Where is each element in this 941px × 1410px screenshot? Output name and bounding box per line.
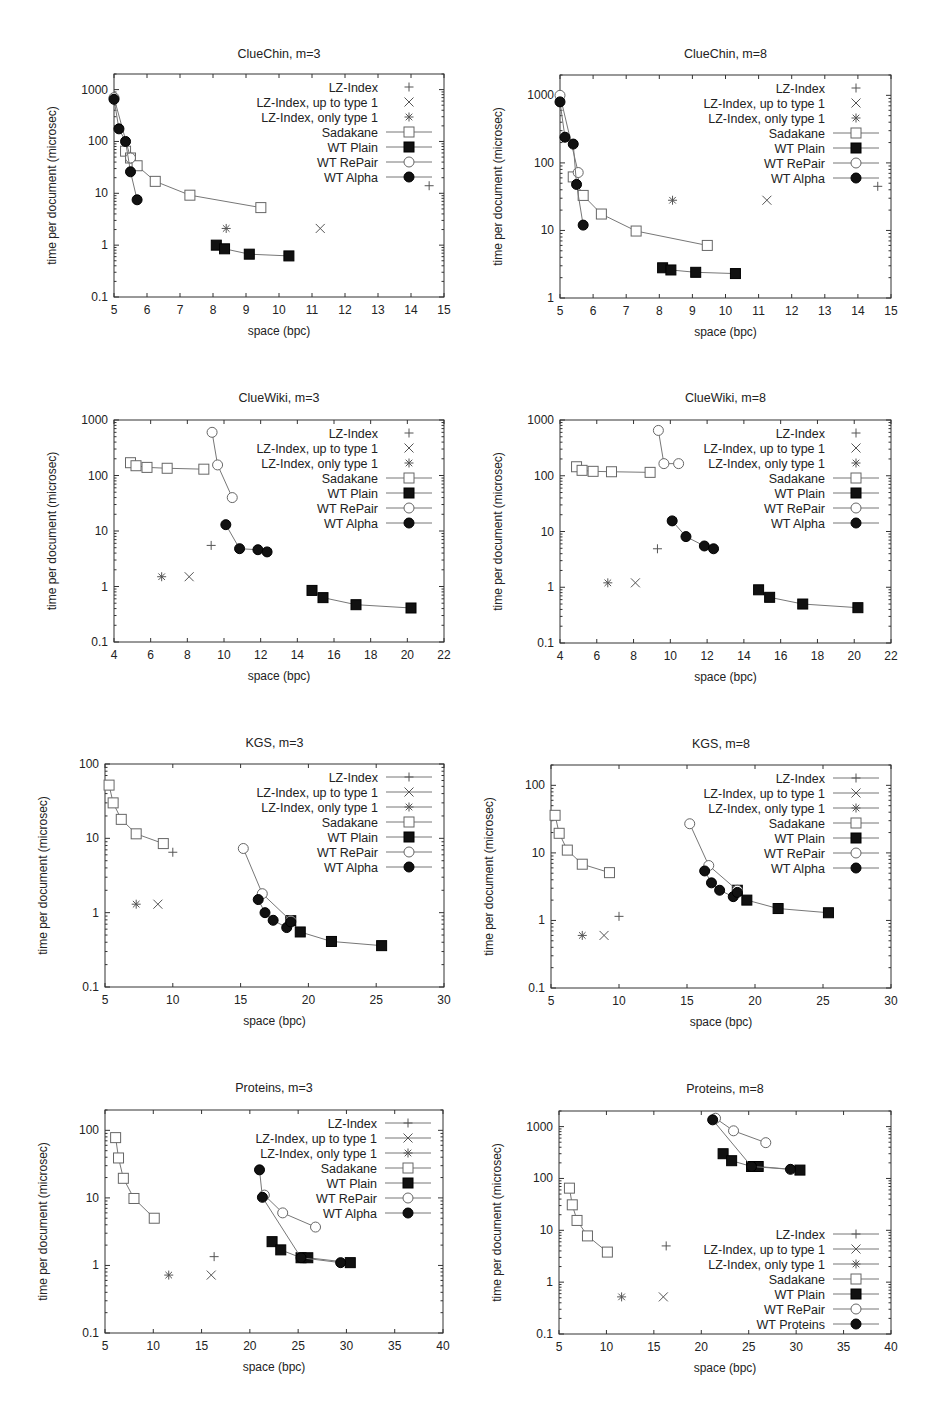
legend-label: WT Alpha	[771, 172, 825, 186]
y-tick-label: 1000	[527, 88, 554, 102]
legend-open-circle-icon	[851, 848, 861, 858]
legend-label: WT RePair	[317, 846, 378, 860]
legend-item: LZ-Index, only type 1	[261, 111, 413, 125]
x-tick-label: 25	[291, 1339, 305, 1353]
series-lz-index	[662, 1241, 671, 1250]
legend-filled-circle-icon	[851, 863, 861, 873]
x-tick-label: 5	[556, 1340, 563, 1354]
legend-item: WT Plain	[775, 832, 879, 846]
legend-label: WT RePair	[764, 502, 825, 516]
legend-filled-circle-icon	[851, 518, 861, 528]
chart-cluewiki-m8: ClueWiki, m=8468101214161820220.11101001…	[491, 391, 898, 684]
series-wt-repair	[711, 1113, 771, 1147]
data-point-star-icon	[603, 578, 612, 587]
x-tick-label: 6	[147, 648, 154, 662]
legend-item: LZ-Index, up to type 1	[703, 97, 860, 111]
legend-item: LZ-Index, up to type 1	[256, 96, 413, 110]
y-tick-label: 1000	[81, 413, 108, 427]
legend-label: LZ-Index, up to type 1	[703, 97, 825, 111]
data-point-open-square-icon	[185, 190, 195, 200]
y-tick-label: 1	[546, 1275, 553, 1289]
x-tick-label: 7	[623, 304, 630, 318]
legend-item: LZ-Index, up to type 1	[256, 442, 413, 456]
legend-label: WT Plain	[775, 1288, 826, 1302]
data-point-open-square-icon	[162, 463, 172, 473]
x-axis-label: space (bpc)	[243, 1014, 306, 1028]
legend-open-circle-icon	[404, 847, 414, 857]
data-point-cross-icon	[600, 931, 609, 940]
chart-title: KGS, m=8	[692, 737, 750, 751]
legend-filled-circle-icon	[404, 862, 414, 872]
series-lz-index-up-to-type-1	[631, 578, 640, 587]
legend-item: WT Plain	[328, 487, 432, 501]
x-tick-label: 40	[884, 1340, 898, 1354]
series-sadakane	[572, 462, 656, 478]
series-wt-plain	[307, 585, 416, 613]
x-tick-label: 15	[647, 1340, 661, 1354]
data-point-filled-circle-icon	[560, 132, 570, 142]
series-sadakane	[104, 780, 168, 848]
x-tick-label: 6	[144, 303, 151, 317]
legend-label: LZ-Index, up to type 1	[255, 1132, 377, 1146]
legend-item: WT Alpha	[324, 861, 432, 875]
legend-label: LZ-Index, only type 1	[261, 457, 378, 471]
data-point-filled-circle-icon	[706, 878, 716, 888]
legend-item: WT Alpha	[771, 517, 879, 531]
legend-open-square-icon	[851, 818, 861, 828]
legend-item: WT Plain	[328, 141, 432, 155]
legend: LZ-IndexLZ-Index, up to type 1LZ-Index, …	[256, 81, 432, 185]
legend-label: LZ-Index, only type 1	[708, 1258, 825, 1272]
y-tick-label: 10	[86, 831, 100, 845]
legend-label: LZ-Index, only type 1	[708, 802, 825, 816]
y-tick-label: 1	[538, 913, 545, 927]
legend-item: LZ-Index	[776, 427, 861, 441]
legend-item: LZ-Index	[328, 1117, 431, 1131]
data-point-filled-circle-icon	[336, 1258, 346, 1268]
x-tick-label: 12	[700, 649, 714, 663]
x-tick-label: 4	[557, 649, 564, 663]
legend-item: WT Alpha	[771, 862, 879, 876]
y-tick-label: 10	[95, 524, 109, 538]
legend-item: LZ-Index	[776, 1228, 879, 1242]
y-tick-label: 0.1	[536, 1327, 553, 1341]
data-point-open-square-icon	[149, 1213, 159, 1223]
legend-filled-square-icon	[404, 488, 414, 498]
legend-item: WT Alpha	[323, 1207, 431, 1221]
legend-plus-icon	[405, 773, 414, 782]
series-lz-index-up-to-type-1	[600, 931, 609, 940]
x-tick-label: 10	[600, 1340, 614, 1354]
legend-open-square-icon	[404, 127, 414, 137]
data-point-open-square-icon	[606, 467, 616, 477]
series-lz-index	[207, 541, 216, 550]
legend-open-circle-icon	[851, 1304, 861, 1314]
legend-item: WT RePair	[317, 502, 432, 516]
x-tick-label: 15	[195, 1339, 209, 1353]
data-point-filled-circle-icon	[296, 1253, 306, 1263]
x-tick-label: 4	[111, 648, 118, 662]
y-tick-label: 1000	[81, 83, 108, 97]
legend-label: WT Alpha	[324, 861, 378, 875]
x-tick-label: 8	[630, 649, 637, 663]
y-tick-label: 0.1	[537, 636, 554, 650]
x-tick-label: 12	[785, 304, 799, 318]
series-wt-repair	[207, 427, 237, 502]
y-tick-label: 10	[532, 846, 546, 860]
legend-open-square-icon	[403, 1163, 413, 1173]
legend-label: WT RePair	[317, 502, 378, 516]
legend-label: WT RePair	[764, 1303, 825, 1317]
data-point-filled-square-icon	[276, 1245, 286, 1255]
x-tick-label: 22	[884, 649, 898, 663]
legend-cross-icon	[852, 99, 861, 108]
legend-cross-icon	[405, 444, 414, 453]
chart-title: ClueWiki, m=3	[239, 391, 320, 405]
x-tick-label: 16	[327, 648, 341, 662]
legend: LZ-IndexLZ-Index, up to type 1LZ-Index, …	[255, 1117, 431, 1221]
data-point-filled-square-icon	[295, 927, 305, 937]
data-point-star-icon	[222, 224, 231, 233]
y-tick-label: 1	[547, 580, 554, 594]
legend-item: Sadakane	[769, 1273, 879, 1287]
data-point-filled-square-icon	[795, 1165, 805, 1175]
data-point-filled-square-icon	[666, 265, 676, 275]
series-wt-plain	[658, 263, 741, 279]
legend-open-circle-icon	[851, 158, 861, 168]
